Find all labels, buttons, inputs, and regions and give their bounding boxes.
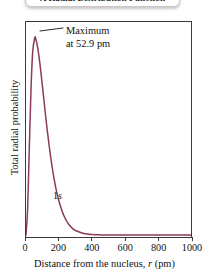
x-axis-tick [25,237,26,241]
radial-distribution-curve [26,22,191,237]
x-tick-label: 200 [51,242,66,253]
x-axis-tick [125,237,126,241]
plot-area [25,21,192,238]
x-axis-title-suffix: (pm) [152,258,175,269]
x-axis-tick [158,237,159,241]
maximum-annotation: Maximum at 52.9 pm [66,24,110,51]
x-axis-tick-labels: 02004006008001000 [0,242,209,256]
x-tick-label: 600 [118,242,133,253]
x-axis-title-prefix: Distance from the nucleus, [34,258,148,269]
x-axis-tick [192,237,193,241]
x-axis-title: Distance from the nucleus, r (pm) [0,258,209,269]
x-axis-tick [58,237,59,241]
y-axis-title: Total radial probability [9,48,20,208]
x-tick-label: 800 [151,242,166,253]
series-1s [26,37,191,235]
annotation-line-2: at 52.9 pm [66,37,110,50]
annotation-line-1: Maximum [66,24,110,37]
x-tick-label: 400 [84,242,99,253]
radial-distribution-figure: Maximum at 52.9 pm 1s 02004006008001000 … [0,0,209,280]
orbital-label: 1s [53,190,62,201]
x-axis-tick [91,237,92,241]
orbital-label-l: s [58,190,62,201]
x-tick-label: 1000 [182,242,202,253]
x-tick-label: 0 [22,242,27,253]
